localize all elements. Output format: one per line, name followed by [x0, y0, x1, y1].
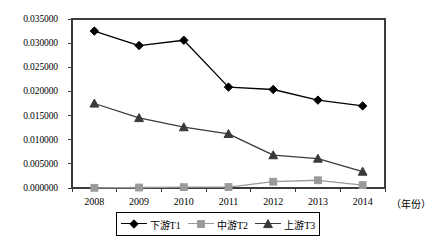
data-point — [90, 99, 99, 107]
series-1 — [90, 27, 367, 110]
legend-marker-shape — [198, 221, 205, 228]
data-point — [225, 184, 232, 191]
legend-marker-diamond-icon — [121, 218, 147, 230]
legend-item[interactable]: 中游T2 — [188, 217, 248, 232]
data-point — [90, 27, 98, 35]
data-point — [180, 184, 187, 191]
data-point — [136, 184, 143, 191]
series-2 — [91, 177, 366, 191]
data-point — [315, 177, 322, 184]
line-chart: 0.0000000.0050000.0100000.0150000.020000… — [0, 0, 447, 249]
legend-item-label: 中游T2 — [216, 217, 248, 232]
legend-item-label: 下游T1 — [149, 217, 181, 232]
data-point — [359, 182, 366, 189]
data-point — [269, 85, 277, 93]
data-point — [358, 102, 366, 110]
series-line — [94, 31, 362, 106]
legend-marker-triangle-icon — [255, 218, 281, 230]
data-point — [91, 184, 98, 191]
chart-legend: 下游T1中游T2上游T3 — [116, 212, 320, 236]
plot-frame — [72, 19, 385, 188]
data-point — [314, 96, 322, 104]
legend-item[interactable]: 上游T3 — [255, 217, 315, 232]
legend-item-label: 上游T3 — [283, 217, 315, 232]
series-3 — [90, 99, 367, 175]
legend-marker-shape — [129, 220, 137, 228]
data-point — [270, 178, 277, 185]
legend-marker-square-icon — [188, 218, 214, 230]
data-point — [135, 41, 143, 49]
legend-item[interactable]: 下游T1 — [121, 217, 181, 232]
legend-marker-shape — [264, 220, 273, 228]
